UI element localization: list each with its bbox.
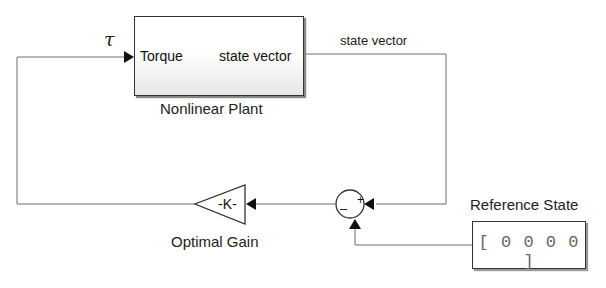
reference-state-block[interactable]: [ 0 0 0 0 ] (472, 221, 586, 269)
gain-name-label: Optimal Gain (171, 233, 259, 250)
reference-value: [ 0 0 0 0 ] (473, 233, 585, 271)
gain-value-label: -K- (218, 196, 237, 212)
sum-plus-arrow-icon (364, 198, 374, 210)
tau-signal-label: τ (104, 28, 115, 50)
state-vector-port-label: state vector (219, 48, 291, 64)
gain-input-arrow-icon (246, 198, 256, 210)
sum-plus-sign: + (357, 193, 364, 207)
plant-name-label: Nonlinear Plant (160, 100, 263, 117)
sum-minus-sign: – (340, 201, 347, 216)
torque-port-label: Torque (140, 48, 183, 64)
state-vector-wire[interactable] (303, 54, 446, 204)
reference-name-label: Reference State (470, 196, 578, 213)
torque-input-arrow-icon (124, 51, 134, 63)
reference-wire[interactable] (355, 228, 472, 245)
state-vector-signal-label: state vector (340, 33, 407, 48)
sum-minus-arrow-icon (349, 219, 361, 229)
